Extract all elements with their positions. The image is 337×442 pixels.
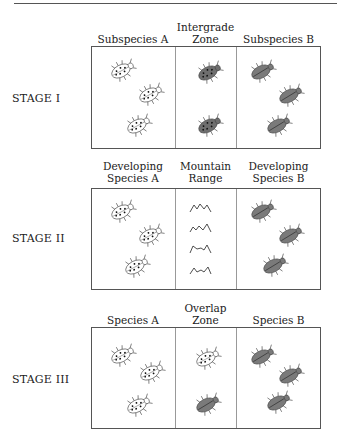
intergrade-beetle-icon bbox=[193, 115, 223, 137]
top-rule bbox=[14, 3, 337, 4]
column-header-intergrade-zone: IntergradeZone bbox=[175, 21, 236, 45]
column-header-developing-species-a: DevelopingSpecies A bbox=[91, 160, 175, 184]
column-divider bbox=[236, 328, 237, 428]
mountain-icon bbox=[190, 264, 212, 276]
column-header-subspecies-a: Subspecies A bbox=[91, 21, 175, 45]
mountain-icon bbox=[190, 202, 212, 214]
spotted-beetle-icon bbox=[122, 395, 152, 417]
spotted-beetle-icon bbox=[191, 348, 221, 370]
striped-beetle-icon bbox=[191, 394, 221, 416]
spotted-beetle-icon bbox=[134, 84, 164, 106]
spotted-beetle-icon bbox=[106, 60, 136, 82]
mountain-icon bbox=[190, 243, 212, 255]
striped-beetle-icon bbox=[262, 392, 292, 414]
column-header-subspecies-b: Subspecies B bbox=[236, 21, 321, 45]
spotted-beetle-icon bbox=[106, 345, 136, 367]
striped-beetle-icon bbox=[274, 365, 304, 387]
column-divider bbox=[175, 189, 176, 289]
striped-beetle-icon bbox=[262, 115, 292, 137]
stage-label: STAGE I bbox=[12, 92, 60, 105]
column-divider bbox=[236, 47, 237, 148]
spotted-beetle-icon bbox=[134, 225, 164, 247]
intergrade-beetle-icon bbox=[193, 62, 223, 84]
striped-beetle-icon bbox=[258, 255, 288, 277]
column-divider bbox=[236, 189, 237, 289]
column-header-species-a: Species A bbox=[91, 302, 175, 326]
striped-beetle-icon bbox=[246, 61, 276, 83]
spotted-beetle-icon bbox=[106, 201, 136, 223]
spotted-beetle-icon bbox=[122, 115, 152, 137]
striped-beetle-icon bbox=[246, 346, 276, 368]
stage-2-box bbox=[91, 188, 321, 290]
column-header-overlap-zone: OverlapZone bbox=[175, 302, 236, 326]
striped-beetle-icon bbox=[274, 85, 304, 107]
mountain-icon bbox=[190, 222, 212, 234]
column-divider bbox=[175, 328, 176, 428]
spotted-beetle-icon bbox=[120, 256, 150, 278]
stage-1-box bbox=[91, 46, 321, 149]
column-divider bbox=[175, 47, 176, 148]
stage-label: STAGE III bbox=[12, 373, 69, 386]
column-header-mountain-range: MountainRange bbox=[175, 160, 236, 184]
column-header-species-b: Species B bbox=[236, 302, 321, 326]
stage-3-box bbox=[91, 327, 321, 429]
striped-beetle-icon bbox=[274, 225, 304, 247]
spotted-beetle-icon bbox=[135, 362, 165, 384]
column-header-developing-species-b: DevelopingSpecies B bbox=[236, 160, 321, 184]
striped-beetle-icon bbox=[246, 201, 276, 223]
stage-label: STAGE II bbox=[12, 232, 65, 245]
